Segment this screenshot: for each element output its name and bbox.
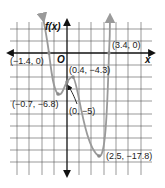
function-graph: f(x) x O (−1.4, 0) (3.4, 0) (0.4, −4.3) …	[0, 0, 165, 188]
function-curve	[43, 18, 110, 156]
label-x-intercept-right: (3.4, 0)	[112, 40, 141, 50]
label-local-min-left: (−0.7, −6.8)	[12, 99, 59, 109]
label-x-intercept-left: (−1.4, 0)	[10, 56, 44, 66]
point-global-min	[97, 154, 101, 158]
origin-label: O	[57, 54, 65, 65]
y-axis-label: f(x)	[45, 21, 61, 32]
x-axis-label: x	[144, 54, 151, 65]
point-x-intercept-right	[107, 51, 111, 55]
label-global-min: (2.5, −17.8)	[106, 151, 152, 161]
point-local-max	[71, 75, 75, 79]
label-local-max: (0.4, −4.3)	[69, 65, 110, 75]
point-local-min-left	[56, 92, 60, 96]
label-y-intercept: (0, −5)	[69, 106, 95, 116]
point-x-intercept-left	[47, 51, 51, 55]
pointer-arrow-icon	[69, 87, 77, 104]
point-y-intercept	[65, 80, 69, 84]
